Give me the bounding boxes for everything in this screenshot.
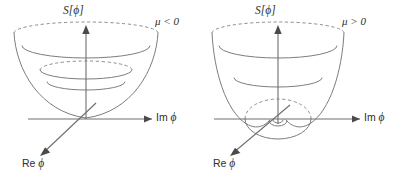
re-phi-axis-line [233, 105, 290, 153]
panel-mu-positive: S[ϕ] μ > 0 Im ϕ Re ϕ [200, 0, 401, 181]
re-phi-axis-label: Re ϕ [22, 158, 44, 170]
im-phi-axis-label-prefix: Im [156, 111, 171, 123]
re-phi-axis-line [43, 103, 96, 153]
re-phi-axis-label-prefix: Re [22, 157, 38, 169]
re-phi-axis-label-symbol: ϕ [38, 157, 44, 169]
trough-wall-right [286, 120, 311, 127]
s-phi-axis-label: S[ϕ] [255, 5, 276, 17]
re-phi-axis-arrowhead [230, 148, 240, 156]
figure-container: S[ϕ] μ < 0 Im ϕ Re ϕ [0, 0, 401, 181]
s-phi-axis-label: S[ϕ] [63, 5, 84, 17]
re-phi-axis-label-symbol: ϕ [229, 157, 235, 169]
im-phi-axis-label-prefix: Im [364, 111, 379, 123]
re-phi-axis-label: Re ϕ [213, 158, 235, 170]
condition-label-mu-negative: μ < 0 [155, 16, 179, 27]
hat-wall-left [212, 33, 245, 123]
panel-left-graphic [0, 0, 200, 181]
im-phi-axis-arrowhead [144, 116, 152, 123]
panel-mu-negative: S[ϕ] μ < 0 Im ϕ Re ϕ [0, 0, 200, 181]
trough-wall-left [245, 120, 270, 127]
im-phi-axis-label-symbol: ϕ [171, 111, 177, 123]
re-phi-axis-label-prefix: Re [213, 157, 229, 169]
hat-wall-right [311, 33, 344, 123]
s-phi-axis-arrowhead [82, 25, 89, 34]
im-phi-axis-label-symbol: ϕ [379, 111, 385, 123]
im-phi-axis-arrowhead [352, 116, 360, 123]
condition-label-mu-positive: μ > 0 [342, 16, 366, 27]
s-phi-axis-arrowhead [274, 25, 281, 34]
im-phi-axis-label: Im ϕ [364, 112, 385, 124]
re-phi-axis-arrowhead [40, 147, 50, 156]
panel-right-graphic [200, 0, 401, 181]
im-phi-axis-label: Im ϕ [156, 112, 177, 124]
